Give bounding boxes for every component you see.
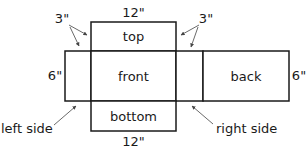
- back-label: back: [231, 69, 262, 84]
- right-side-arrow-icon: [192, 106, 213, 124]
- left-side-panel: [65, 51, 91, 101]
- bottom-width-dimension: 12": [122, 134, 145, 149]
- right-height-dimension: 6": [292, 68, 306, 83]
- right-flap-arrow-icon: [191, 27, 198, 47]
- front-label: front: [118, 69, 149, 84]
- right-flap-arrow-icon: [181, 25, 199, 35]
- top-width-dimension: 12": [122, 5, 145, 20]
- right-side-callout: right side: [216, 121, 277, 136]
- left-side-callout: left side: [1, 121, 53, 136]
- left-side-arrow-icon: [54, 106, 76, 125]
- bottom-label: bottom: [110, 109, 157, 124]
- box-net-diagram: top front back bottom 12" 12" 6" 6" 3" 3…: [0, 0, 308, 153]
- top-label: top: [123, 29, 144, 44]
- right-side-panel: [176, 51, 203, 101]
- right-flap-dimension: 3": [199, 11, 213, 26]
- left-flap-dimension: 3": [55, 11, 69, 26]
- left-height-dimension: 6": [48, 68, 62, 83]
